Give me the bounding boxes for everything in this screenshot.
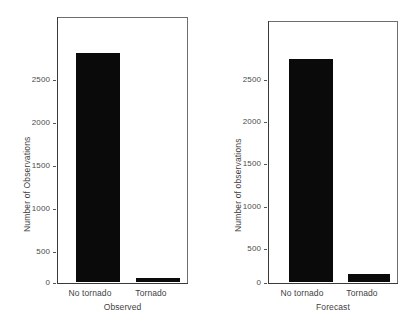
y-tick-label: 1500 <box>243 159 261 169</box>
x-tick-label-tornado-forecast: Tornado <box>331 288 393 298</box>
y-tick-2500: 2500 <box>26 80 56 90</box>
y-tick-label: 2000 <box>32 118 50 128</box>
y-axis-ticks-right: 2500 2000 1500 1000 500 0 <box>237 21 267 283</box>
y-tick-label: 1000 <box>32 204 50 214</box>
bar-tornado-forecast <box>348 274 390 282</box>
y-tick-label: 0 <box>256 278 261 288</box>
y-tick-2500: 2500 <box>237 80 267 90</box>
y-tick-label: 500 <box>36 247 50 257</box>
y-tick-label: 1000 <box>243 202 261 212</box>
y-tick-0: 0 <box>26 283 56 293</box>
y-tick-label: 0 <box>45 278 50 288</box>
y-tick-mark <box>264 122 267 123</box>
x-axis-line-left <box>57 283 188 284</box>
y-axis-line-left <box>57 17 58 284</box>
y-axis-ticks-left: 2500 2000 1500 1000 500 0 <box>26 17 56 283</box>
y-tick-mark <box>53 166 56 167</box>
y-tick-label: 2500 <box>32 75 50 85</box>
x-tick-label-tornado-observed: Tornado <box>120 288 182 298</box>
y-tick-mark <box>53 209 56 210</box>
y-tick-1500: 1500 <box>237 164 267 174</box>
y-tick-mark <box>53 80 56 81</box>
y-tick-label: 2000 <box>243 117 261 127</box>
y-tick-label: 500 <box>247 244 261 254</box>
y-tick-0: 0 <box>237 283 267 293</box>
y-axis-line-right <box>268 21 269 284</box>
y-tick-mark <box>264 80 267 81</box>
y-tick-mark <box>264 283 267 284</box>
y-tick-mark <box>53 123 56 124</box>
y-tick-1000: 1000 <box>26 209 56 219</box>
y-tick-mark <box>53 283 56 284</box>
y-tick-mark <box>264 164 267 165</box>
plot-area-observed <box>57 17 188 284</box>
x-axis-label-right: Forecast <box>268 302 398 312</box>
bar-no-tornado-observed <box>76 53 120 282</box>
y-tick-mark <box>264 207 267 208</box>
y-tick-label: 2500 <box>243 75 261 85</box>
x-axis-line-right <box>268 283 398 284</box>
y-tick-2000: 2000 <box>26 123 56 133</box>
bar-no-tornado-forecast <box>289 59 333 282</box>
chart-panel-observed: Number of Observations 2500 2000 1500 10… <box>0 0 210 334</box>
y-tick-500: 500 <box>237 249 267 259</box>
y-tick-mark <box>264 249 267 250</box>
y-tick-1000: 1000 <box>237 207 267 217</box>
y-tick-1500: 1500 <box>26 166 56 176</box>
bar-tornado-observed <box>136 278 180 282</box>
y-tick-2000: 2000 <box>237 122 267 132</box>
x-axis-label-left: Observed <box>57 302 188 312</box>
plot-area-forecast <box>268 21 398 284</box>
x-tick-label-no-tornado-forecast: No tornado <box>271 288 333 298</box>
chart-panel-forecast: Number of observations 2500 2000 1500 10… <box>210 0 420 334</box>
x-tick-label-no-tornado-observed: No tornado <box>59 288 121 298</box>
y-tick-mark <box>53 252 56 253</box>
figure-canvas: Number of Observations 2500 2000 1500 10… <box>0 0 420 334</box>
y-tick-label: 1500 <box>32 161 50 171</box>
y-tick-500: 500 <box>26 252 56 262</box>
